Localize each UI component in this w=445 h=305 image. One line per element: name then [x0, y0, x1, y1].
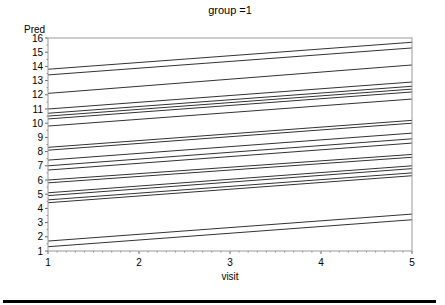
x-tick-label: 5	[409, 257, 415, 268]
y-tick-label: 11	[33, 104, 44, 115]
x-tick-label: 3	[227, 257, 233, 268]
y-tick-label: 14	[32, 61, 44, 72]
y-tick-label: 1	[37, 246, 43, 257]
series-line	[48, 42, 412, 69]
series-line	[48, 154, 412, 180]
y-axis: 12345678910111213141516	[32, 33, 48, 257]
series-line	[48, 214, 412, 241]
x-tick-label: 1	[45, 257, 51, 268]
x-axis-label: visit	[221, 271, 238, 282]
y-tick-label: 8	[37, 146, 43, 157]
y-tick-label: 13	[32, 75, 44, 86]
y-tick-label: 6	[37, 175, 43, 186]
bottom-divider	[3, 300, 436, 303]
chart: group =1 Pred visit 12345678910111213141…	[0, 0, 445, 305]
series-line	[48, 48, 412, 75]
y-tick-label: 7	[37, 160, 43, 171]
y-tick-label: 9	[37, 132, 43, 143]
series-line	[48, 169, 412, 196]
y-tick-label: 16	[32, 33, 44, 44]
y-tick-label: 15	[32, 47, 44, 58]
series-line	[48, 220, 412, 247]
y-tick-label: 10	[32, 118, 44, 129]
y-tick-label: 4	[37, 203, 43, 214]
y-tick-label: 12	[32, 89, 44, 100]
plot-frame	[48, 38, 412, 251]
x-tick-label: 2	[136, 257, 142, 268]
y-tick-label: 2	[37, 231, 43, 242]
y-tick-label: 5	[37, 189, 43, 200]
series-lines	[48, 42, 412, 246]
series-line	[48, 65, 412, 93]
x-axis: 12345	[45, 251, 415, 268]
chart-title: group =1	[208, 4, 252, 16]
x-tick-label: 4	[318, 257, 324, 268]
series-line	[48, 86, 412, 113]
series-line	[48, 173, 412, 200]
y-tick-label: 3	[37, 217, 43, 228]
